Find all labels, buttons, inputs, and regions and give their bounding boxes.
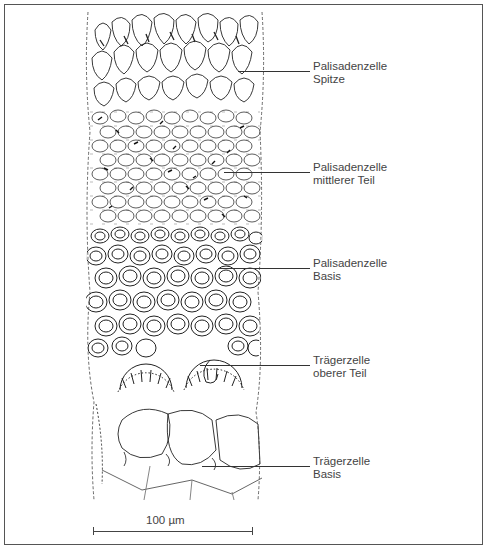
label-line2: oberer Teil [313,367,370,380]
leader-line [218,268,310,269]
leader-line [224,172,310,173]
scale-bar-line [93,531,253,532]
leader-line [202,466,310,467]
scale-bar-tick-left [93,527,94,535]
carrier-cell-base [96,404,262,500]
leader-line [238,71,310,72]
label-line1: Palisadenzelle [313,161,387,174]
palisade-middle-cells [90,110,262,224]
leader-line [200,365,310,366]
label-line2: mittlerer Teil [313,174,387,187]
label-line2: Basis [313,270,387,283]
label-line1: Palisadenzelle [313,60,387,73]
label-line2: Spitze [313,73,387,86]
label-line1: Trägerzelle [313,455,370,468]
palisade-base-cells [85,227,264,357]
palisade-tip-cells [92,13,258,106]
label-line2: Basis [313,468,370,481]
tissue-cross-section-drawing [0,0,490,554]
scale-bar-label: 100 µm [146,514,185,526]
scale-bar-tick-right [252,527,253,535]
label-line1: Palisadenzelle [313,257,387,270]
label-line1: Trägerzelle [313,354,370,367]
